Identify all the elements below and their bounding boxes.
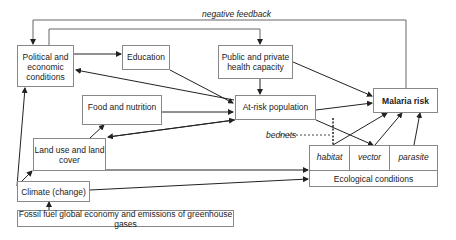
- node-label: Education: [127, 52, 165, 62]
- node-fossil-fuel: Fossil fuel global economy and emissions…: [17, 210, 234, 227]
- ecological-conditions-label: Ecological conditions: [310, 171, 437, 187]
- node-label: Climate (change): [21, 187, 86, 197]
- bednets-label: bednets: [266, 130, 296, 140]
- connector-lines: [0, 0, 456, 240]
- node-label: Food and nutrition: [88, 102, 157, 112]
- node-at-risk-population: At-risk population: [235, 95, 316, 120]
- cell-habitat: habitat: [310, 146, 350, 171]
- node-label: Fossil fuel global economy and emissions…: [18, 209, 233, 229]
- node-health-capacity: Public and private health capacity: [218, 45, 293, 79]
- cell-parasite: parasite: [390, 146, 437, 171]
- node-label: At-risk population: [243, 102, 309, 112]
- cell-vector: vector: [350, 146, 390, 171]
- node-label: Political and economic conditions: [18, 52, 73, 82]
- negative-feedback-label: negative feedback: [202, 9, 271, 19]
- node-label: Land use and land cover: [34, 145, 105, 165]
- node-political-economic-conditions: Political and economic conditions: [17, 45, 74, 87]
- node-malaria-risk: Malaria risk: [373, 88, 438, 113]
- node-climate-change: Climate (change): [17, 181, 90, 202]
- node-label: Malaria risk: [382, 96, 429, 106]
- node-food-nutrition: Food and nutrition: [82, 95, 162, 125]
- node-label: Public and private health capacity: [219, 52, 292, 72]
- node-education: Education: [122, 45, 170, 70]
- node-land-use: Land use and land cover: [33, 138, 106, 171]
- node-ecological-conditions: habitat vector parasite Ecological condi…: [309, 145, 438, 187]
